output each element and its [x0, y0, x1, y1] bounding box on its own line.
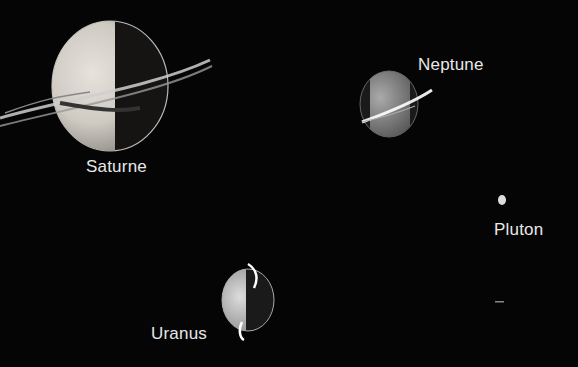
planets-artwork — [0, 0, 578, 367]
solar-system-illustration: Saturne Neptune Pluton Uranus — [0, 0, 578, 367]
pluto-planet — [495, 195, 506, 303]
uranus-planet — [222, 264, 274, 340]
saturne-label: Saturne — [86, 157, 147, 177]
charon-mark — [495, 301, 504, 303]
neptune-planet — [360, 71, 432, 137]
saturn-planet — [0, 21, 212, 151]
pluton-label: Pluton — [494, 220, 543, 240]
uranus-label: Uranus — [151, 324, 207, 344]
neptune-label: Neptune — [418, 55, 484, 75]
